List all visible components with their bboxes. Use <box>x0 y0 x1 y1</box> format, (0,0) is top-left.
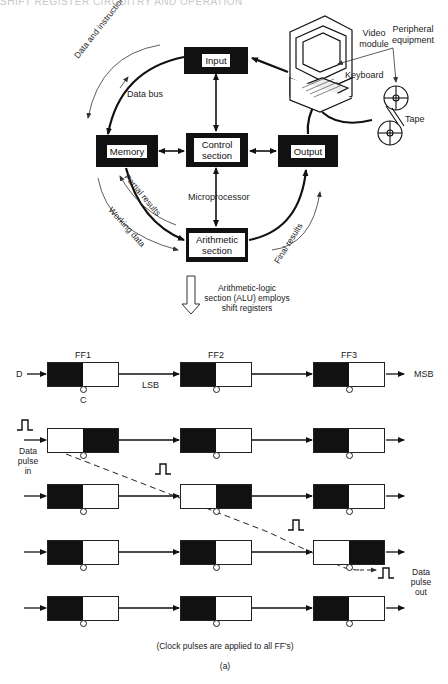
clock-input-icon <box>346 508 353 515</box>
ff-half-left <box>48 597 83 620</box>
clock-footnote: (Clock pulses are applied to all FF's) <box>120 641 330 652</box>
ff-half-right <box>349 541 384 564</box>
ff-half-left <box>181 429 216 452</box>
flip-flop-r3-c1 <box>180 540 252 565</box>
clock-label: C <box>80 395 87 406</box>
ff3-label: FF3 <box>341 350 357 361</box>
clock-input-icon <box>346 386 353 393</box>
peripheral-equipment-label: Peripheral equipment <box>384 24 442 46</box>
ff-half-right <box>216 363 251 386</box>
clock-input-icon <box>213 564 220 571</box>
ff-half-left <box>48 485 83 508</box>
ff-half-right <box>216 597 251 620</box>
clock-input-icon <box>80 620 87 627</box>
ff-half-left <box>314 485 349 508</box>
ff-half-left <box>314 597 349 620</box>
clock-input-icon <box>213 452 220 459</box>
ff1-label: FF1 <box>75 350 91 361</box>
keyboard-label: Keyboard <box>345 70 384 81</box>
d-input-label: D <box>16 369 23 380</box>
input-block: Input <box>184 47 248 74</box>
ff-half-right <box>216 541 251 564</box>
tape-label: Tape <box>405 114 425 125</box>
flip-flop-r4-c2 <box>313 596 385 621</box>
msb-label: MSB <box>414 369 434 380</box>
ff-half-right <box>83 541 118 564</box>
tape-reels-icon <box>378 86 408 145</box>
data-pulse-out-label: Data pulse out <box>407 567 435 597</box>
clock-input-icon <box>80 386 87 393</box>
ff-half-right <box>349 429 384 452</box>
flip-flop-r1-c0 <box>47 428 119 453</box>
flip-flop-r0-c1 <box>180 362 252 387</box>
clock-input-icon <box>80 508 87 515</box>
output-block: Output <box>278 135 338 167</box>
flip-flop-r3-c2 <box>313 540 385 565</box>
ff-half-left <box>181 363 216 386</box>
down-arrow-hollow-icon <box>182 276 200 314</box>
clock-input-icon <box>80 452 87 459</box>
flip-flop-r3-c0 <box>47 540 119 565</box>
ff-half-right <box>83 597 118 620</box>
ff-half-left <box>48 429 83 452</box>
ff-half-right <box>83 363 118 386</box>
data-bus-label: Data bus <box>127 89 163 100</box>
clock-input-icon <box>346 564 353 571</box>
alu-caption: Arithmetic-logic section (ALU) employs s… <box>204 283 290 313</box>
figure-label: (a) <box>210 661 240 672</box>
ff-half-left <box>181 541 216 564</box>
ff-half-right <box>83 429 118 452</box>
flip-flop-r4-c1 <box>180 596 252 621</box>
flip-flop-r1-c1 <box>180 428 252 453</box>
flip-flop-r2-c2 <box>313 484 385 509</box>
clock-input-icon <box>213 508 220 515</box>
ff-half-right <box>216 429 251 452</box>
ff-half-left <box>48 363 83 386</box>
ff-half-left <box>181 597 216 620</box>
ff-half-right <box>216 485 251 508</box>
clock-input-icon <box>213 620 220 627</box>
video-terminal-icon <box>290 16 352 112</box>
clock-input-icon <box>213 386 220 393</box>
flip-flop-r2-c0 <box>47 484 119 509</box>
flip-flop-r0-c0 <box>47 362 119 387</box>
clock-input-icon <box>346 452 353 459</box>
ff-half-left <box>48 541 83 564</box>
microprocessor-label: Microprocessor <box>188 192 250 203</box>
ff-half-right <box>349 363 384 386</box>
diagram-lines <box>0 0 448 684</box>
clock-input-icon <box>346 620 353 627</box>
memory-block: Memory <box>96 135 158 167</box>
flip-flop-r0-c2 <box>313 362 385 387</box>
flip-flop-r1-c2 <box>313 428 385 453</box>
ff-half-left <box>314 541 349 564</box>
ff-half-left <box>314 363 349 386</box>
ff-half-right <box>349 597 384 620</box>
ff-half-right <box>83 485 118 508</box>
lsb-label: LSB <box>142 380 159 391</box>
ff-half-left <box>314 429 349 452</box>
flip-flop-r2-c1 <box>180 484 252 509</box>
data-pulse-in-label: Data pulse in <box>14 446 42 476</box>
ff2-label: FF2 <box>208 350 224 361</box>
arithmetic-section-block: Arithmetic section <box>186 228 248 262</box>
ff-half-right <box>349 485 384 508</box>
clock-input-icon <box>80 564 87 571</box>
flip-flop-r4-c0 <box>47 596 119 621</box>
control-section-block: Control section <box>186 133 248 167</box>
ff-half-left <box>181 485 216 508</box>
